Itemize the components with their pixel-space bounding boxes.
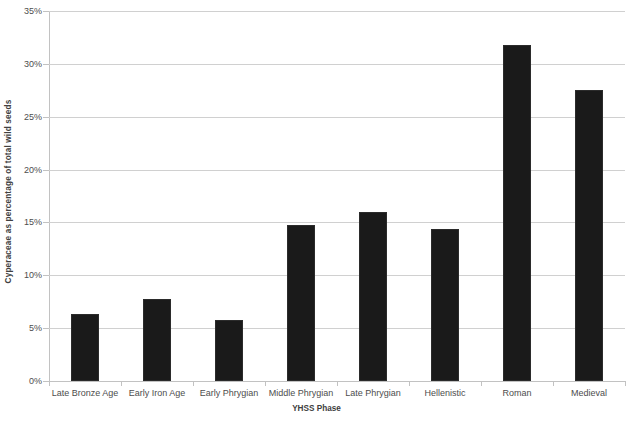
y-tick-mark	[43, 64, 49, 65]
gridline	[49, 222, 625, 223]
y-tick-label: 15%	[24, 217, 42, 227]
x-tick-mark	[409, 381, 410, 386]
y-tick-mark	[43, 11, 49, 12]
y-tick-label: 10%	[24, 270, 42, 280]
x-tick-mark	[481, 381, 482, 386]
y-tick-mark	[43, 222, 49, 223]
x-tick-label: Middle Phrygian	[269, 388, 334, 398]
y-tick-label: 30%	[24, 59, 42, 69]
plot-area	[49, 11, 625, 381]
bar	[215, 320, 243, 381]
bar	[431, 229, 459, 381]
x-axis-title: YHSS Phase	[0, 404, 633, 413]
x-tick-mark	[193, 381, 194, 386]
x-tick-mark	[553, 381, 554, 386]
x-tick-label: Medieval	[571, 388, 607, 398]
y-tick-label: 20%	[24, 165, 42, 175]
bar	[143, 299, 171, 381]
x-axis-tick-labels: Late Bronze AgeEarly Iron AgeEarly Phryg…	[49, 388, 625, 404]
y-tick-label: 25%	[24, 112, 42, 122]
bar	[287, 225, 315, 381]
bar	[359, 212, 387, 381]
x-tick-label: Hellenistic	[424, 388, 465, 398]
x-tick-label: Early Phrygian	[200, 388, 259, 398]
x-tick-mark	[625, 381, 626, 386]
gridline	[49, 275, 625, 276]
gridline	[49, 328, 625, 329]
x-tick-mark	[265, 381, 266, 386]
x-tick-mark	[337, 381, 338, 386]
x-tick-mark	[121, 381, 122, 386]
y-axis-tick-labels: 0%5%10%15%20%25%30%35%	[14, 0, 46, 383]
y-tick-label: 0%	[29, 376, 42, 386]
y-tick-label: 35%	[24, 6, 42, 16]
bar	[503, 45, 531, 381]
y-tick-mark	[43, 328, 49, 329]
x-tick-mark	[49, 381, 50, 386]
y-tick-label: 5%	[29, 323, 42, 333]
x-tick-label: Early Iron Age	[129, 388, 186, 398]
y-axis-title-text: Cyperaceae as percentage of total wild s…	[5, 100, 14, 284]
y-tick-mark	[43, 117, 49, 118]
gridline	[49, 64, 625, 65]
bar	[71, 314, 99, 381]
x-tick-label: Late Bronze Age	[52, 388, 119, 398]
y-tick-mark	[43, 170, 49, 171]
x-tick-label: Late Phrygian	[345, 388, 401, 398]
bar-chart: Cyperaceae as percentage of total wild s…	[0, 0, 633, 423]
gridline	[49, 117, 625, 118]
x-tick-label: Roman	[502, 388, 531, 398]
bar	[575, 90, 603, 381]
gridline	[49, 11, 625, 12]
gridline	[49, 170, 625, 171]
y-tick-mark	[43, 275, 49, 276]
